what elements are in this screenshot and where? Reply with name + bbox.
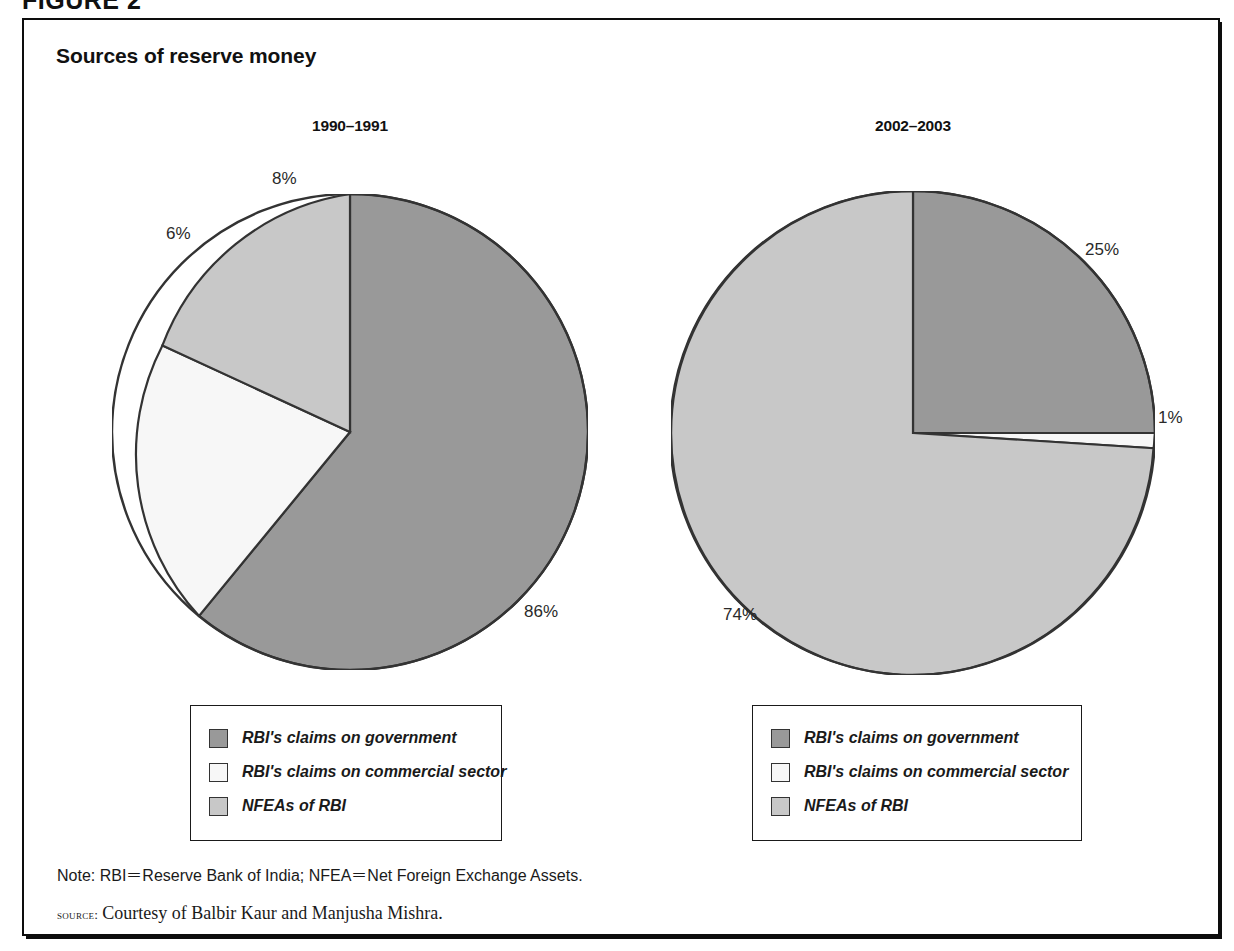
pct-label-left-government: 86% [524,602,558,622]
white-swatch-icon [771,763,790,782]
legend-item-nfea: NFEAs of RBI [209,789,501,823]
legend-1990-1991: RBI's claims on government RBI's claims … [190,705,502,841]
legend-label-commercial: RBI's claims on commercial sector [804,763,1068,781]
pct-label-right-government: 25% [1085,240,1119,260]
legend-label-nfea: NFEAs of RBI [242,797,346,815]
legend-label-government: RBI's claims on government [242,729,457,747]
panel-heading-1990-1991: 1990–1991 [312,117,388,135]
legend-label-government: RBI's claims on government [804,729,1019,747]
legend-item-nfea: NFEAs of RBI [771,789,1081,823]
legend-item-government: RBI's claims on government [209,721,501,755]
note-line: Note: RBI＝Reserve Bank of India; NFEA＝Ne… [57,862,583,886]
legend-label-nfea: NFEAs of RBI [804,797,908,815]
light-gray-swatch-icon [771,797,790,816]
light-gray-swatch-icon [209,797,228,816]
source-text: Courtesy of Balbir Kaur and Manjusha Mis… [102,903,442,923]
legend-item-commercial: RBI's claims on commercial sector [771,755,1081,789]
pie-chart-2002-2003 [671,191,1155,675]
pct-label-right-commercial: 1% [1158,408,1183,428]
chart-title: Sources of reserve money [56,44,316,68]
white-swatch-icon [209,763,228,782]
legend-item-commercial: RBI's claims on commercial sector [209,755,501,789]
pct-label-left-nfea: 8% [272,169,297,189]
panel-heading-2002-2003: 2002–2003 [875,117,951,135]
frame-right-edge [1219,22,1222,939]
source-label: SOURCE: [57,907,98,922]
frame-bottom-edge [26,936,1222,939]
legend-2002-2003: RBI's claims on government RBI's claims … [752,705,1082,841]
pie-slice-government [913,191,1155,433]
dark-gray-swatch-icon [209,729,228,748]
legend-item-government: RBI's claims on government [771,721,1081,755]
figure-number: FIGURE 2 [22,0,141,15]
pct-label-left-commercial: 6% [166,224,191,244]
pct-label-right-nfea: 74% [723,605,757,625]
dark-gray-swatch-icon [771,729,790,748]
pie-chart-1990-1991 [112,194,588,670]
legend-label-commercial: RBI's claims on commercial sector [242,763,506,781]
source-line: SOURCE:Courtesy of Balbir Kaur and Manju… [57,903,443,924]
